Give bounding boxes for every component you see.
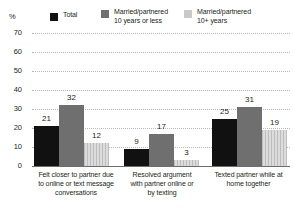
- legend-item-total: Total: [50, 11, 77, 21]
- bar-2-2: [262, 130, 287, 166]
- bar-2-0: [212, 119, 237, 167]
- bar-0-0: [34, 126, 59, 166]
- legend-item-10-or-less: Married/partnered 10 years or less: [101, 8, 168, 25]
- bar-1-0: [124, 149, 149, 166]
- bar-group-2-series-2: 19: [262, 33, 287, 166]
- bar-value-0-2: 12: [78, 131, 115, 140]
- bar-1-2: [174, 160, 199, 166]
- bar-group-1: 9 17 3: [124, 33, 202, 166]
- bar-chart: Total Married/partnered 10 years or less…: [0, 0, 294, 221]
- bar-group-0-series-2: 12: [84, 33, 109, 166]
- gridline-baseline: [32, 166, 290, 167]
- x-axis-label-0: Felt closer to partner due to online or …: [30, 170, 122, 197]
- plot-area: 70 60 50 40 30 20 10 0 21 32: [32, 33, 290, 166]
- bar-group-1-series-2: 3: [174, 33, 199, 166]
- legend-item-10-plus: Married/partnered 10+ years: [184, 8, 251, 25]
- y-tick-20: 20: [0, 124, 22, 132]
- bar-2-1: [237, 107, 262, 166]
- legend-label-10-or-less: Married/partnered 10 years or less: [114, 8, 168, 25]
- y-axis-unit-label: %: [9, 12, 16, 21]
- bar-value-1-2: 3: [168, 148, 205, 157]
- bar-value-2-2: 19: [256, 118, 293, 127]
- x-axis-labels: Felt closer to partner due to online or …: [30, 170, 292, 216]
- y-tick-10: 10: [0, 143, 22, 151]
- bar-group-2: 25 31 19: [212, 33, 290, 166]
- bar-0-2: [84, 143, 109, 166]
- legend-swatch-total: [50, 13, 58, 21]
- bar-group-2-series-1: 31: [237, 33, 262, 166]
- y-tick-0: 0: [0, 162, 22, 170]
- y-tick-70: 70: [0, 29, 22, 37]
- y-tick-50: 50: [0, 67, 22, 75]
- x-axis-label-1: Resolved argument with partner online or…: [120, 170, 204, 197]
- bar-group-1-series-0: 9: [124, 33, 149, 166]
- legend-swatch-10-or-less: [101, 10, 109, 18]
- y-tick-30: 30: [0, 105, 22, 113]
- legend-label-total: Total: [63, 11, 77, 20]
- chart-legend: Total Married/partnered 10 years or less…: [0, 7, 294, 33]
- bar-group-0-series-1: 32: [59, 33, 84, 166]
- y-tick-40: 40: [0, 86, 22, 94]
- bar-group-1-series-1: 17: [149, 33, 174, 166]
- y-tick-60: 60: [0, 48, 22, 56]
- x-axis-label-2: Texted partner while at home together: [205, 170, 292, 188]
- bar-group-0: 21 32 12: [34, 33, 112, 166]
- bar-groups: 21 32 12 9 17: [32, 33, 290, 166]
- legend-label-10-plus: Married/partnered 10+ years: [197, 8, 251, 25]
- legend-swatch-10-plus: [184, 10, 192, 18]
